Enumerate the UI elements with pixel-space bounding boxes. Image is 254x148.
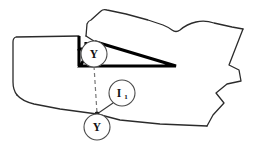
view-balloon-top[interactable]: Y bbox=[81, 41, 107, 67]
view-balloon-bottom-label: Y bbox=[93, 121, 102, 133]
upper-tab-outline bbox=[86, 10, 243, 36]
section-balloon[interactable]: I 1 bbox=[109, 80, 135, 106]
technical-diagram-figure: Y Y I 1 bbox=[0, 0, 254, 148]
diagram-canvas: Y Y I 1 bbox=[0, 0, 254, 148]
view-balloon-bottom[interactable]: Y bbox=[84, 114, 110, 140]
section-balloon-label: I bbox=[117, 87, 122, 99]
section-callout-leader bbox=[97, 103, 113, 114]
view-balloon-top-label: Y bbox=[90, 48, 99, 60]
left-edge-outline bbox=[13, 36, 79, 95]
section-balloon-circle bbox=[109, 80, 135, 106]
part-outline-group bbox=[13, 10, 243, 126]
section-balloon-subscript: 1 bbox=[124, 93, 128, 101]
section-cut-dashed-line bbox=[94, 66, 97, 113]
right-edge-zigzag-outline bbox=[207, 29, 243, 126]
